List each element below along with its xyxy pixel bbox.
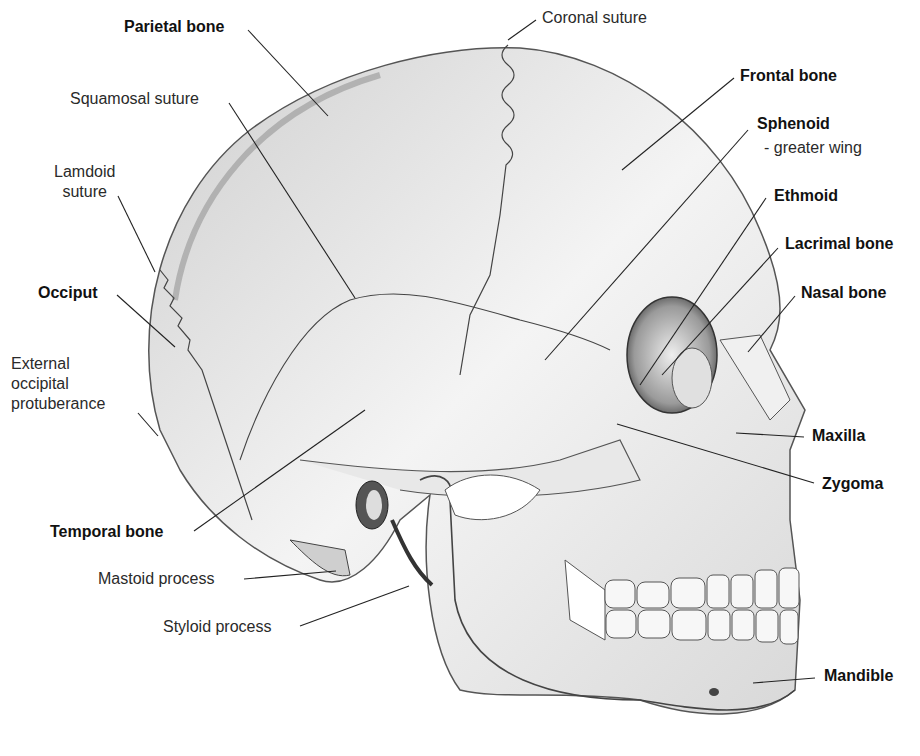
label-lamdoid-suture: Lamdoidsuture <box>54 162 115 202</box>
label-external-occipital-protuberance: Externaloccipitalprotuberance <box>11 354 105 414</box>
label-parietal-bone: Parietal bone <box>124 17 224 37</box>
label-nasal-bone: Nasal bone <box>801 283 886 303</box>
label-frontal-bone: Frontal bone <box>740 66 837 86</box>
label-mastoid-process: Mastoid process <box>98 569 215 589</box>
label-ethmoid: Ethmoid <box>774 186 838 206</box>
label-zygoma: Zygoma <box>822 474 883 494</box>
leader-styloid-process <box>300 586 409 626</box>
label-temporal-bone: Temporal bone <box>50 522 164 542</box>
label-squamosal-suture: Squamosal suture <box>70 89 199 109</box>
label-sphenoid-sub: - greater wing <box>764 138 862 158</box>
label-maxilla: Maxilla <box>812 426 865 446</box>
skull-diagram: Parietal boneCoronal sutureSquamosal sut… <box>0 0 920 756</box>
label-occiput: Occiput <box>38 283 98 303</box>
label-mandible: Mandible <box>824 666 893 686</box>
label-sphenoid: Sphenoid <box>757 114 830 134</box>
leader-coronal-suture <box>508 20 536 40</box>
label-coronal-suture: Coronal suture <box>542 8 647 28</box>
label-lacrimal-bone: Lacrimal bone <box>785 234 893 254</box>
label-styloid-process: Styloid process <box>163 617 272 637</box>
leader-lamdoid-suture <box>118 196 155 272</box>
leader-external-occipital-protuberance <box>138 413 158 436</box>
leader-parietal-bone <box>248 30 328 116</box>
